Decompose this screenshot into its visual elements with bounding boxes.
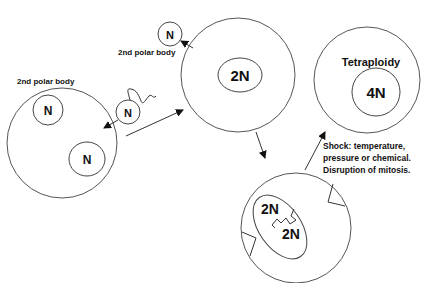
- zygote-nucleus-label: 2N: [230, 67, 249, 84]
- left-polar-body-nucleus: N: [33, 95, 63, 125]
- sperm-nucleus-label: N: [124, 107, 132, 119]
- shock-arrow: [305, 132, 325, 170]
- left-polar-body-label: 2nd polar body: [17, 77, 75, 86]
- tetraploidy-label: Tetraploidy: [342, 56, 401, 68]
- mitosis-nucleus-a-label: 2N: [261, 201, 279, 217]
- zygote-cell: 2N: [181, 18, 295, 132]
- shock-caption-line1: Shock: temperature,: [323, 141, 405, 151]
- tetraploid-nucleus-label: 4N: [366, 84, 385, 101]
- cleavage-notch-right: [328, 184, 345, 206]
- shock-caption: Shock: temperature, pressure or chemical…: [323, 141, 411, 175]
- top-polar-body: N: [158, 22, 182, 46]
- egg-nucleus-label: N: [83, 153, 92, 167]
- shock-caption-line3: Disruption of mitosis.: [323, 165, 410, 175]
- mitosis-cell: 2N 2N: [241, 173, 351, 283]
- tetraploid-cell: Tetraploidy 4N: [314, 27, 420, 133]
- tetraploidy-induction-diagram: N N 2nd polar body N N 2nd polar body 2N…: [0, 0, 435, 283]
- left-polar-nucleus-label: N: [44, 104, 53, 118]
- zygote-to-mitosis-arrow: [256, 132, 265, 158]
- shock-caption-line2: pressure or chemical.: [323, 153, 411, 163]
- egg-cell: N N: [7, 88, 117, 198]
- top-polar-body-label: 2nd polar body: [118, 48, 176, 57]
- mitosis-nucleus-b-label: 2N: [282, 226, 300, 242]
- fertilization-arrow: [104, 120, 118, 128]
- sperm: N: [116, 89, 156, 124]
- top-polar-nucleus-label: N: [166, 29, 174, 41]
- cleavage-notch-left: [242, 232, 256, 256]
- egg-nucleus: N: [69, 142, 105, 176]
